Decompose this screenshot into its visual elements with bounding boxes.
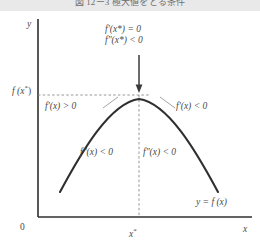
y-axis-label: y: [27, 19, 31, 29]
annotation-arrow-head: [136, 85, 143, 94]
left-slope-annotation: f′(x) > 0: [45, 101, 76, 112]
second-order-condition: f″(x*) < 0: [105, 35, 143, 46]
figure-canvas: y x 0 x* f (x*) f′(x*) = 0 f″(x*) < 0 f′…: [0, 11, 260, 249]
x-star-tick-label: x*: [129, 227, 137, 240]
diagram-svg: [0, 11, 260, 249]
f-of-x-star-label: f (x*): [12, 84, 31, 97]
x-star-tick-sup: *: [133, 227, 137, 235]
figure-caption-text: 図 12ー3 極大値をとる条件: [0, 0, 260, 8]
apex-flank-tick-left: [103, 97, 118, 108]
curve-equation-label: y = f (x): [196, 197, 227, 208]
origin-label: 0: [20, 222, 25, 232]
lower-left-curvature-annotation: f″(x) < 0: [80, 147, 113, 158]
lower-right-curvature-annotation: f″(x) < 0: [143, 147, 176, 158]
right-slope-annotation: f′(x) < 0: [176, 101, 207, 112]
first-order-condition: f′(x*) = 0: [105, 24, 143, 35]
apex-flank-tick-right: [160, 97, 175, 108]
f-of-x-star-close: ): [28, 86, 31, 96]
f-of-x-star-text: f (x: [12, 86, 24, 96]
function-curve: [60, 99, 218, 192]
figure-caption-strip: 図 12ー3 極大値をとる条件: [0, 0, 260, 11]
x-axis-label: x: [243, 224, 247, 234]
first-second-order-conditions: f′(x*) = 0 f″(x*) < 0: [105, 24, 143, 46]
